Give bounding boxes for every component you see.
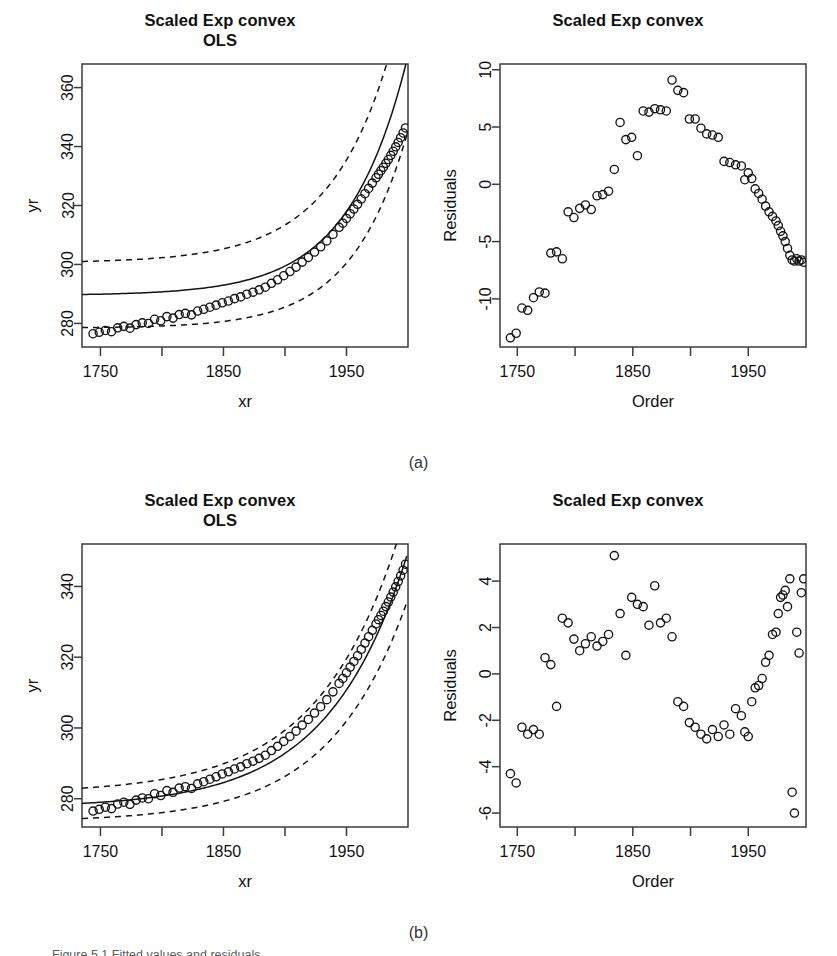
data-point (512, 779, 520, 787)
data-point (737, 712, 745, 720)
data-point (691, 115, 699, 123)
data-point (645, 621, 653, 629)
data-point (593, 642, 601, 650)
data-point (731, 705, 739, 713)
data-point (518, 723, 526, 731)
confidence-band-line (82, 602, 407, 818)
data-point (587, 633, 595, 641)
data-point (668, 633, 676, 641)
panel-b-left-title-line1: Scaled Exp convex (144, 491, 295, 509)
y-axis-label: yr (23, 198, 41, 212)
x-axis-label: Order (632, 872, 675, 890)
data-point (674, 698, 682, 706)
data-point (310, 709, 318, 717)
x-tick-label: 1750 (83, 843, 119, 860)
data-point (267, 279, 275, 287)
scatter-points (89, 560, 410, 815)
data-point (541, 654, 549, 662)
data-point (535, 288, 543, 296)
y-tick-label: -6 (478, 806, 495, 820)
data-point (783, 603, 791, 611)
data-point (720, 157, 728, 165)
data-point (790, 809, 798, 817)
data-point (304, 715, 312, 723)
data-point (581, 640, 589, 648)
data-point (697, 730, 705, 738)
x-axis-label: xr (238, 392, 252, 410)
data-point (662, 107, 670, 115)
panel-b-left-title: Scaled Exp convex OLS (10, 490, 430, 530)
data-point (558, 255, 566, 263)
x-tick-label: 1750 (83, 363, 119, 380)
data-point (570, 635, 578, 643)
y-tick-label: 0 (478, 180, 495, 189)
data-point (610, 552, 618, 560)
data-point (524, 730, 532, 738)
panel-b-right-plot: Scaled Exp convex -6-4-2024175018501950O… (428, 490, 828, 910)
panel-b-left-plot: Scaled Exp convex OLS 280300320340175018… (10, 490, 430, 910)
data-point (651, 582, 659, 590)
data-point (552, 702, 560, 710)
data-point (685, 719, 693, 727)
y-tick-label: 360 (60, 74, 77, 101)
data-point (552, 248, 560, 256)
data-point (748, 698, 756, 706)
panel-a: Scaled Exp convex OLS 280300320340360175… (0, 10, 837, 440)
data-point (317, 703, 325, 711)
panel-a-right-title-line2 (428, 30, 828, 50)
y-tick-label: -4 (478, 759, 495, 773)
y-tick-label: 4 (478, 577, 495, 586)
panel-a-right-plot: Scaled Exp convex -10-50510175018501950O… (428, 10, 828, 430)
scatter-points (89, 124, 410, 338)
x-tick-label: 1850 (206, 843, 242, 860)
fit-curve-group (82, 510, 407, 819)
y-axis-label: Residuals (441, 649, 459, 721)
data-point (512, 329, 520, 337)
y-axis-label: yr (23, 678, 41, 692)
data-point (793, 628, 801, 636)
data-point (708, 725, 716, 733)
x-tick-label: 1750 (500, 363, 536, 380)
data-point (656, 619, 664, 627)
data-point (506, 770, 514, 778)
data-point (547, 661, 555, 669)
data-point (680, 702, 688, 710)
data-point (786, 575, 794, 583)
y-tick-label: 320 (60, 644, 77, 671)
data-point (737, 162, 745, 170)
data-point (668, 76, 676, 84)
data-point (599, 637, 607, 645)
data-point (506, 334, 514, 342)
y-tick-label: 300 (60, 251, 77, 278)
panel-b: Scaled Exp convex OLS 280300320340175018… (0, 490, 837, 920)
data-point (587, 205, 595, 213)
data-point (691, 723, 699, 731)
panel-a-left-title-line2: OLS (10, 30, 430, 50)
figure-root: Scaled Exp convex OLS 280300320340360175… (0, 0, 837, 956)
data-point (656, 106, 664, 114)
data-point (323, 696, 331, 704)
data-point (576, 647, 584, 655)
panel-b-label: (b) (0, 924, 837, 942)
data-point (639, 107, 647, 115)
x-tick-label: 1950 (329, 843, 365, 860)
x-tick-label: 1850 (615, 843, 651, 860)
data-point (529, 725, 537, 733)
x-tick-label: 1850 (615, 363, 651, 380)
panel-b-right-title-line1: Scaled Exp convex (552, 491, 703, 509)
x-tick-label: 1950 (730, 363, 766, 380)
y-tick-label: 340 (60, 573, 77, 600)
data-point (323, 237, 331, 245)
data-point (329, 688, 337, 696)
data-point (726, 730, 734, 738)
y-tick-label: -5 (478, 234, 495, 248)
scatter-points (506, 76, 808, 342)
y-tick-label: 2 (478, 623, 495, 632)
data-point (593, 192, 601, 200)
data-point (788, 788, 796, 796)
data-point (622, 651, 630, 659)
scatter-points (506, 552, 808, 818)
y-tick-label: 5 (478, 122, 495, 131)
x-axis-label: Order (632, 392, 675, 410)
y-tick-label: 340 (60, 133, 77, 160)
